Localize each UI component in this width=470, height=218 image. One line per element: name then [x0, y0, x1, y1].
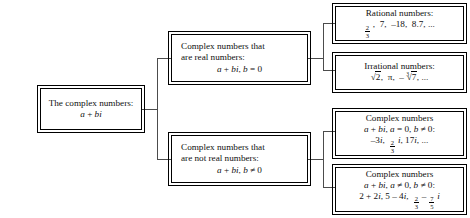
- connector-not-real-vertical: [323, 131, 324, 187]
- cube-root-seven: 3√7: [404, 72, 417, 84]
- imaginary-condition: a + bi, a = 0, b ≠ 0:: [336, 124, 463, 135]
- not-real-line-1: Complex numbers that: [172, 142, 307, 153]
- nonreal-title: Complex numbers: [336, 169, 463, 180]
- fraction-two-thirds-real-part: 23: [414, 195, 419, 210]
- imaginary-title: Complex numbers: [336, 113, 463, 124]
- not-real-formula: a + bi, b ≠ 0: [172, 165, 307, 176]
- node-pure-imaginary-numbers: Complex numbers a + bi, a = 0, b ≠ 0: –3…: [335, 111, 464, 156]
- complex-numbers-diagram: The complex numbers: a + bi Complex numb…: [0, 0, 470, 218]
- connector-real-out: [308, 58, 324, 59]
- root-formula: a + bi: [41, 109, 141, 120]
- connector-not-real-out: [308, 159, 324, 160]
- sqrt-two: √2: [371, 72, 381, 83]
- irrational-title: Irrational numbers:: [336, 61, 463, 72]
- node-the-complex-numbers: The complex numbers: a + bi: [40, 88, 142, 130]
- real-line-2: are real numbers:: [172, 52, 307, 63]
- node-irrational-numbers: Irrational numbers: √2, π, –3√7, ...: [335, 55, 464, 90]
- node-nonreal-complex-numbers: Complex numbers a + bi, a ≠ 0, b ≠ 0: 2 …: [335, 167, 464, 212]
- connector-real-vertical: [323, 23, 324, 71]
- real-formula: a + bi, b = 0: [172, 64, 307, 75]
- connector-to-not-real: [157, 159, 171, 160]
- connector-to-real: [157, 58, 171, 59]
- connector-to-nonreal: [323, 187, 335, 188]
- node-complex-numbers-that-are-not-real: Complex numbers that are not real number…: [171, 135, 308, 183]
- imaginary-examples: –3i, 23 i, 17i, ...: [336, 135, 463, 155]
- fraction-two-thirds: 23: [365, 24, 370, 39]
- connector-root-out: [142, 109, 158, 110]
- node-complex-numbers-that-are-real: Complex numbers that are real numbers: a…: [171, 34, 308, 82]
- connector-to-imaginary: [323, 131, 335, 132]
- rational-title: Rational numbers:: [336, 8, 463, 19]
- node-rational-numbers: Rational numbers: 23 , 7, –18, 8.7, ...: [335, 6, 464, 41]
- irrational-examples: √2, π, –3√7, ...: [336, 72, 463, 84]
- connector-to-rational: [323, 23, 335, 24]
- nonreal-examples: 2 + 2i, 5 – 4i, 23 – 75 i: [336, 191, 463, 211]
- fraction-seven-fifths: 75: [429, 195, 434, 210]
- real-line-1: Complex numbers that: [172, 41, 307, 52]
- nonreal-condition: a + bi, a ≠ 0, b ≠ 0:: [336, 180, 463, 191]
- not-real-line-2: are not real numbers:: [172, 153, 307, 164]
- rational-examples: 23 , 7, –18, 8.7, ...: [336, 19, 463, 39]
- connector-root-vertical: [157, 58, 158, 160]
- root-line-1: The complex numbers:: [41, 98, 141, 109]
- connector-to-irrational: [323, 70, 335, 71]
- fraction-two-thirds-imaginary: 23: [390, 139, 395, 154]
